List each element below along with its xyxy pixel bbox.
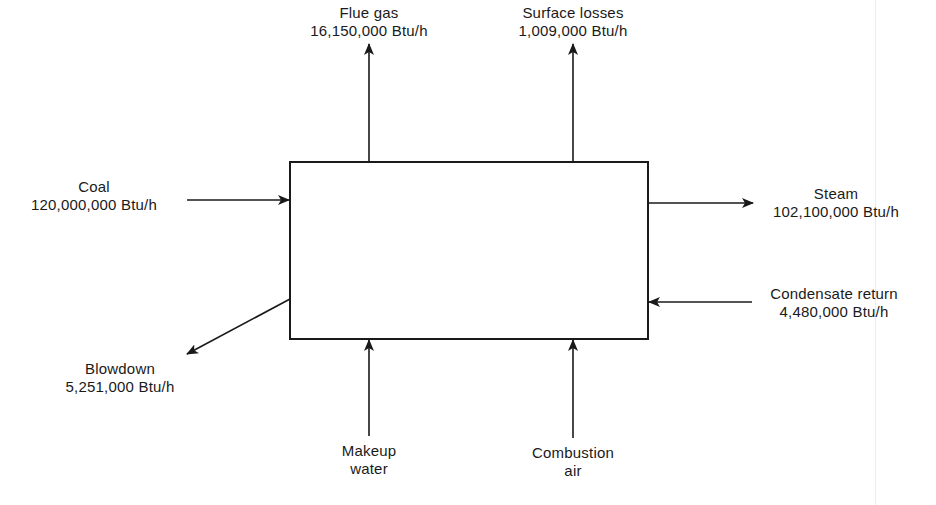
makeup-water-name-line1: Makeup — [319, 442, 419, 460]
surface-losses-name: Surface losses — [503, 4, 643, 22]
coal-name: Coal — [0, 178, 188, 196]
makeup-water-name-line2: water — [319, 460, 419, 478]
steam-value: 102,100,000 Btu/h — [756, 203, 916, 221]
coal-label: Coal 120,000,000 Btu/h — [0, 178, 188, 214]
surface-losses-value: 1,009,000 Btu/h — [503, 22, 643, 40]
coal-value: 120,000,000 Btu/h — [0, 196, 188, 214]
flue-gas-label: Flue gas 16,150,000 Btu/h — [299, 4, 439, 40]
flue-gas-value: 16,150,000 Btu/h — [299, 22, 439, 40]
surface-losses-label: Surface losses 1,009,000 Btu/h — [503, 4, 643, 40]
combustion-air-label: Combustion air — [513, 444, 633, 480]
energy-balance-diagram — [0, 0, 936, 505]
makeup-water-label: Makeup water — [319, 442, 419, 478]
blowdown-value: 5,251,000 Btu/h — [40, 378, 200, 396]
blowdown-label: Blowdown 5,251,000 Btu/h — [40, 360, 200, 396]
combustion-air-name-line1: Combustion — [513, 444, 633, 462]
flue-gas-name: Flue gas — [299, 4, 439, 22]
boiler-system-box — [290, 162, 648, 339]
combustion-air-name-line2: air — [513, 462, 633, 480]
steam-label: Steam 102,100,000 Btu/h — [756, 185, 916, 221]
steam-name: Steam — [756, 185, 916, 203]
condensate-return-name: Condensate return — [754, 285, 914, 303]
blowdown-name: Blowdown — [40, 360, 200, 378]
condensate-return-value: 4,480,000 Btu/h — [754, 303, 914, 321]
condensate-return-label: Condensate return 4,480,000 Btu/h — [754, 285, 914, 321]
blowdown-arrow — [187, 299, 290, 354]
